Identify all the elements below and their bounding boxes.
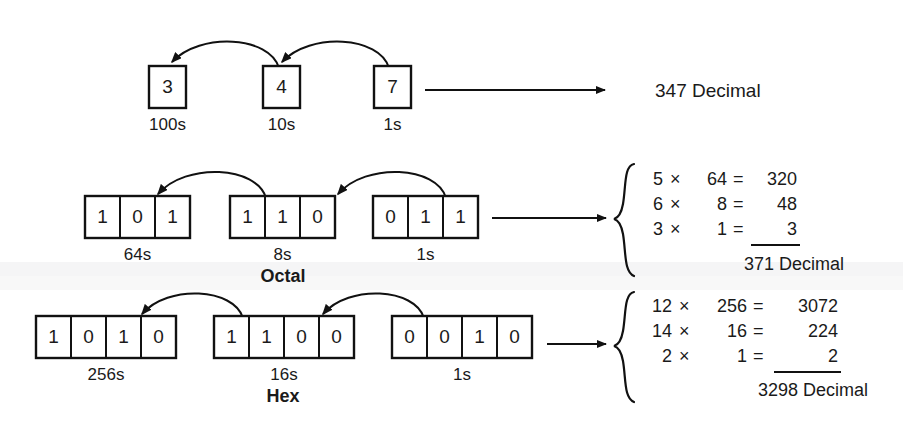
calc-weight: 1 — [737, 346, 747, 366]
calc-digit: 2 — [662, 346, 672, 366]
digit-value: 1 — [474, 326, 485, 347]
calc-times-sign: × — [670, 169, 681, 189]
calc-digit: 5 — [653, 169, 663, 189]
calc-product: 48 — [777, 194, 797, 214]
curved-arrow-icon — [323, 293, 424, 318]
digit-value: 1 — [48, 326, 59, 347]
curved-arrow-icon — [282, 42, 389, 68]
calc-digit: 14 — [652, 321, 672, 341]
digit-value: 0 — [439, 326, 450, 347]
digit-value: 0 — [296, 326, 307, 347]
calc-equals-sign: = — [733, 194, 744, 214]
digit-value: 4 — [276, 76, 287, 97]
digit-value: 0 — [312, 206, 323, 227]
digit-group-hex-256s: 1 0 1 0 256s — [36, 316, 176, 384]
digit-value: 1 — [277, 206, 288, 227]
digit-value: 0 — [331, 326, 342, 347]
base-label-hex: Hex — [266, 386, 299, 406]
digit-group-octal-8s: 1 1 0 8s — [230, 196, 335, 264]
digit-value: 1 — [167, 206, 178, 227]
digit-value: 1 — [455, 206, 466, 227]
calc-times-sign: × — [670, 194, 681, 214]
place-label: 64s — [124, 245, 151, 264]
digit-value: 0 — [404, 326, 415, 347]
calc-product: 2 — [828, 346, 838, 366]
calc-times-sign: × — [679, 321, 690, 341]
digit-group-octal-64s: 1 0 1 64s — [85, 196, 190, 264]
place-label: 256s — [88, 365, 125, 384]
digit-value: 1 — [242, 206, 253, 227]
curved-arrow-icon — [338, 172, 446, 198]
calc-times-sign: × — [670, 219, 681, 239]
calc-product: 320 — [767, 169, 797, 189]
calc-total: 3298 Decimal — [758, 380, 868, 400]
digit-value: 3 — [162, 76, 173, 97]
digit-group-decimal-1s: 7 1s — [374, 66, 411, 134]
digit-group-decimal-100s: 3 100s — [149, 66, 186, 134]
curved-arrow-icon — [142, 293, 243, 318]
place-label: 1s — [384, 115, 402, 134]
calc-total: 371 Decimal — [744, 254, 844, 274]
row-octal: 1 0 1 64s 1 1 0 8s 0 1 1 1s Octal — [85, 164, 844, 286]
calc-times-sign: × — [679, 296, 690, 316]
calc-block-octal: 5 × 64 = 320 6 × 8 = 48 3 × 1 = 3 371 De… — [653, 169, 844, 274]
digit-group-octal-1s: 0 1 1 1s — [373, 196, 478, 264]
digit-group-hex-16s: 1 1 0 0 16s — [214, 316, 354, 384]
digit-value: 7 — [387, 76, 398, 97]
calc-weight: 16 — [727, 321, 747, 341]
curved-arrow-icon — [158, 172, 266, 198]
curly-brace-icon — [614, 164, 634, 276]
calc-product: 3 — [787, 219, 797, 239]
calc-equals-sign: = — [753, 321, 764, 341]
digit-value: 0 — [509, 326, 520, 347]
calc-weight: 1 — [717, 219, 727, 239]
curly-brace-icon — [614, 292, 634, 402]
calc-times-sign: × — [679, 346, 690, 366]
decimal-result: 347 Decimal — [655, 80, 761, 101]
digit-value: 0 — [132, 206, 143, 227]
digit-value: 0 — [385, 206, 396, 227]
digit-value: 1 — [261, 326, 272, 347]
curved-arrow-icon — [172, 42, 279, 68]
calc-weight: 256 — [717, 296, 747, 316]
digit-group-hex-1s: 0 0 1 0 1s — [392, 316, 532, 384]
calc-product: 3072 — [798, 296, 838, 316]
calc-block-hex: 12 × 256 = 3072 14 × 16 = 224 2 × 1 = 2 … — [652, 296, 868, 400]
place-label: 8s — [274, 245, 292, 264]
place-label: 1s — [417, 245, 435, 264]
digit-value: 1 — [118, 326, 129, 347]
digit-group-decimal-10s: 4 10s — [263, 66, 300, 134]
place-label: 10s — [268, 115, 295, 134]
digit-value: 1 — [226, 326, 237, 347]
calc-digit: 12 — [652, 296, 672, 316]
row-decimal: 3 100s 4 10s 7 1s 347 Decimal — [149, 42, 761, 134]
calc-weight: 64 — [707, 169, 727, 189]
calc-equals-sign: = — [733, 219, 744, 239]
calc-product: 224 — [808, 321, 838, 341]
digit-value: 0 — [83, 326, 94, 347]
calc-digit: 3 — [653, 219, 663, 239]
base-label-octal: Octal — [260, 266, 305, 286]
digit-value: 0 — [153, 326, 164, 347]
place-label: 100s — [149, 115, 186, 134]
place-label: 1s — [453, 365, 471, 384]
digit-value: 1 — [420, 206, 431, 227]
calc-weight: 8 — [717, 194, 727, 214]
number-base-diagram: 3 100s 4 10s 7 1s 347 Decimal 1 0 — [0, 0, 903, 431]
calc-equals-sign: = — [753, 296, 764, 316]
place-label: 16s — [270, 365, 297, 384]
calc-digit: 6 — [653, 194, 663, 214]
calc-equals-sign: = — [753, 346, 764, 366]
calc-equals-sign: = — [733, 169, 744, 189]
row-hex: 1 0 1 0 256s 1 1 0 0 16s 0 0 1 0 — [36, 292, 868, 406]
digit-value: 1 — [97, 206, 108, 227]
